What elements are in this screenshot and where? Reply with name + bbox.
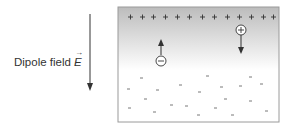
semiconductor-box — [118, 7, 279, 122]
field-arrow-down-icon — [87, 14, 93, 91]
dipole-diagram — [0, 0, 291, 129]
